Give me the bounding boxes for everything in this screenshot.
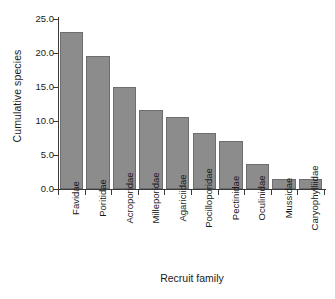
y-axis-tick-label: 5.0 xyxy=(24,150,54,160)
x-axis-tick-label: Pocilloporidae xyxy=(191,196,218,266)
y-axis-tick-mark xyxy=(53,121,58,122)
y-axis-tick-mark xyxy=(53,53,58,54)
x-axis-tick-label: Favidae xyxy=(58,196,85,266)
y-axis-tick-mark xyxy=(53,19,58,20)
x-axis-tick-mark xyxy=(218,190,219,195)
y-axis-tick-mark xyxy=(53,155,58,156)
x-axis-tick-label-text: Mussidae xyxy=(284,178,294,219)
x-axis-tick-mark xyxy=(244,190,245,195)
x-axis-tick-label: Mussidae xyxy=(271,196,298,266)
x-axis-title: Recruit family xyxy=(58,272,326,284)
bar xyxy=(86,56,109,189)
plot-area xyxy=(58,19,324,189)
x-axis-tick-label-text: Agariciidae xyxy=(178,175,188,222)
x-axis-tick-mark xyxy=(58,190,59,195)
x-axis-tick-label-text: Pocilloporidae xyxy=(204,168,214,228)
x-axis-tick-label-text: Oculinidae xyxy=(257,176,267,221)
x-axis-tick-label-text: Acroporidae xyxy=(124,172,134,223)
x-axis-tick-label-text: Caryophylliidae xyxy=(311,166,321,231)
x-axis-tick-label: Poritidae xyxy=(85,196,112,266)
x-axis-tick-label-text: Milleporidae xyxy=(151,172,161,223)
bar xyxy=(60,32,83,189)
x-axis-tick-label-text: Favidae xyxy=(71,181,81,215)
x-axis-tick-labels: FavidaePoritidaeAcroporidaeMilleporidaeA… xyxy=(58,196,326,268)
y-axis-tick-label: 15.0 xyxy=(24,82,54,92)
x-axis-tick-label: Caryophylliidae xyxy=(297,196,324,266)
x-axis-tick-label: Acroporidae xyxy=(111,196,138,266)
x-axis-tick-mark xyxy=(138,190,139,195)
x-axis-tick-mark xyxy=(324,190,325,195)
x-axis-tick-mark xyxy=(271,190,272,195)
y-axis-title-text: Cumulative species xyxy=(11,50,23,143)
x-axis-tick-mark xyxy=(297,190,298,195)
y-axis-tick-label: 0.0 xyxy=(24,184,54,194)
x-axis-tick-label: Oculinidae xyxy=(244,196,271,266)
x-axis-tick-label-text: Poritidae xyxy=(98,179,108,217)
x-axis-tick-mark xyxy=(85,190,86,195)
bar-chart-figure: Cumulative species 0.05.010.015.020.025.… xyxy=(0,0,335,299)
x-axis-tick-label: Milleporidae xyxy=(138,196,165,266)
y-axis-tick-label: 10.0 xyxy=(24,116,54,126)
x-axis-tick-mark xyxy=(111,190,112,195)
x-axis-tick-label: Agariciidae xyxy=(164,196,191,266)
x-axis-tick-label: Pectinidae xyxy=(218,196,245,266)
y-axis-tick-mark xyxy=(53,87,58,88)
x-axis-tick-label-text: Pectinidae xyxy=(231,176,241,220)
y-axis-tick-labels: 0.05.010.015.020.025.0 xyxy=(24,0,54,299)
x-axis-tick-mark xyxy=(164,190,165,195)
bar-series xyxy=(58,19,324,189)
x-axis-tick-mark xyxy=(191,190,192,195)
y-axis-tick-label: 20.0 xyxy=(24,48,54,58)
y-axis-tick-label: 25.0 xyxy=(24,14,54,24)
